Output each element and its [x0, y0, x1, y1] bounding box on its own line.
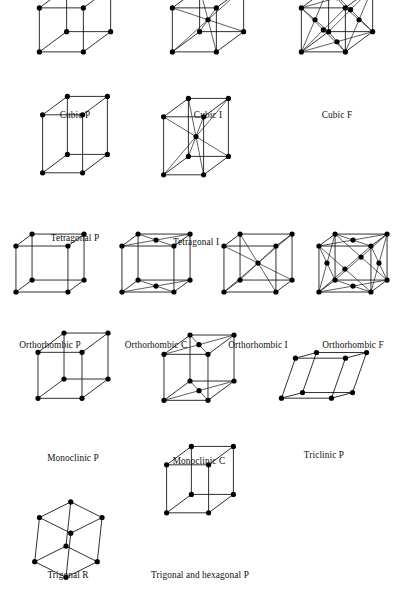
lattice-point-centering — [358, 254, 363, 259]
lattice-label-trigonal-hexagonal-p: Trigonal and hexagonal P — [151, 570, 249, 580]
lattice-point-corner — [343, 5, 348, 10]
lattice-point-corner — [170, 49, 175, 54]
lattice-point-corner — [187, 231, 192, 236]
lattice-point-centering — [312, 17, 317, 22]
lattice-point-corner — [273, 243, 278, 248]
lattice-point-corner — [65, 243, 70, 248]
lattice-point-corner — [171, 289, 176, 294]
lattice-point-corner — [35, 350, 40, 355]
lattice-point-centering — [376, 260, 381, 265]
lattice-point-corner — [164, 510, 169, 515]
lattice-point-corner — [61, 330, 66, 335]
lattice-point-corner — [37, 49, 42, 54]
lattice-point-corner — [205, 352, 210, 357]
lattice-point-corner — [40, 112, 45, 117]
lattice-point-corner — [279, 396, 284, 401]
lattice-point-centering — [350, 237, 355, 242]
lattice-point-centering — [334, 39, 339, 44]
lattice-point-corner — [108, 29, 113, 34]
lattice-point-corner — [314, 350, 319, 355]
lattice-point-corner — [119, 289, 124, 294]
lattice-point-corner — [384, 277, 389, 282]
lattice-point-corner — [186, 154, 191, 159]
figure-background — [0, 0, 394, 598]
lattice-point-corner — [65, 94, 70, 99]
lattice-point-corner — [316, 243, 321, 248]
lattice-point-corner — [161, 398, 166, 403]
lattice-point-corner — [299, 5, 304, 10]
lattice-point-centering — [193, 134, 198, 139]
lattice-point-centering — [356, 17, 361, 22]
lattice-point-corner — [214, 5, 219, 10]
lattice-point-corner — [221, 243, 226, 248]
lattice-point-corner — [81, 5, 86, 10]
lattice-point-corner — [237, 277, 242, 282]
lattice-point-corner — [289, 231, 294, 236]
lattice-point-corner — [197, 29, 202, 34]
lattice-point-corner — [364, 350, 369, 355]
lattice-point-corner — [68, 531, 73, 536]
lattice-point-corner — [231, 444, 236, 449]
lattice-point-centering — [196, 388, 201, 393]
lattice-point-corner — [214, 49, 219, 54]
lattice-point-corner — [206, 510, 211, 515]
lattice-point-corner — [370, 29, 375, 34]
lattice-point-corner — [99, 515, 104, 520]
lattice-point-corner — [226, 96, 231, 101]
lattice-point-corner — [119, 243, 124, 248]
lattice-label-tetragonal-p: Tetragonal P — [51, 233, 99, 243]
lattice-point-corner — [326, 29, 331, 34]
lattice-point-corner — [79, 396, 84, 401]
lattice-point-centering — [324, 260, 329, 265]
lattice-point-corner — [32, 559, 37, 564]
lattice-point-corner — [300, 390, 305, 395]
lattice-point-centering — [153, 283, 158, 288]
lattice-point-corner — [329, 396, 334, 401]
lattice-point-corner — [95, 559, 100, 564]
lattice-label-triclinic-p: Triclinic P — [304, 450, 344, 460]
lattice-point-corner — [293, 356, 298, 361]
lattice-point-corner — [65, 289, 70, 294]
lattice-point-corner — [29, 277, 34, 282]
lattice-point-centering — [153, 237, 158, 242]
lattice-point-corner — [81, 49, 86, 54]
lattice-point-corner — [187, 277, 192, 282]
lattice-point-corner — [205, 398, 210, 403]
lattice-point-corner — [81, 277, 86, 282]
lattice-point-corner — [187, 332, 192, 337]
lattice-point-corner — [105, 376, 110, 381]
lattice-point-centering — [321, 27, 326, 32]
lattice-point-corner — [35, 396, 40, 401]
lattice-point-corner — [368, 243, 373, 248]
lattice-point-corner — [187, 378, 192, 383]
lattice-point-corner — [384, 231, 389, 236]
lattice-point-corner — [68, 499, 73, 504]
lattice-point-corner — [13, 289, 18, 294]
lattice-point-corner — [350, 390, 355, 395]
lattice-point-corner — [343, 356, 348, 361]
lattice-point-corner — [79, 350, 84, 355]
lattice-point-corner — [332, 277, 337, 282]
lattice-point-corner — [368, 289, 373, 294]
lattice-point-corner — [64, 29, 69, 34]
lattice-point-corner — [161, 352, 166, 357]
lattice-point-corner — [231, 332, 236, 337]
lattice-point-corner — [299, 49, 304, 54]
lattice-point-corner — [289, 277, 294, 282]
lattice-point-corner — [226, 154, 231, 159]
lattice-point-corner — [343, 49, 348, 54]
lattice-point-centering — [205, 17, 210, 22]
lattice-point-corner — [40, 170, 45, 175]
lattice-label-cubic-p: Cubic P — [60, 110, 90, 120]
lattice-point-corner — [241, 29, 246, 34]
lattice-point-corner — [189, 492, 194, 497]
lattice-point-corner — [105, 152, 110, 157]
lattice-point-corner — [221, 289, 226, 294]
lattice-point-corner — [29, 231, 34, 236]
lattice-point-corner — [135, 277, 140, 282]
lattice-point-corner — [161, 172, 166, 177]
lattice-label-orthorhombic-f: Orthorhombic F — [322, 340, 384, 350]
lattice-label-trigonal-r: Trigonal R — [47, 570, 89, 580]
lattice-point-corner — [135, 231, 140, 236]
lattice-point-corner — [164, 462, 169, 467]
